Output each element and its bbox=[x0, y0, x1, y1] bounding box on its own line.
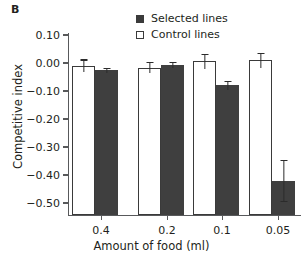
error-bar-control-0.4 bbox=[80, 59, 88, 72]
error-bar-selected-0.05 bbox=[280, 160, 288, 202]
x-tick-label: 0.4 bbox=[92, 225, 110, 237]
bar-selected-0.4 bbox=[95, 70, 118, 215]
y-tick-label: −0.30 bbox=[26, 142, 60, 153]
bar-selected-0.1 bbox=[216, 85, 239, 215]
error-bar-control-0.1 bbox=[201, 54, 209, 70]
y-tick-mark bbox=[63, 146, 69, 147]
legend-swatch-filled-square-icon bbox=[136, 15, 144, 23]
y-tick-label: −0.40 bbox=[26, 170, 60, 181]
y-tick-label: −0.50 bbox=[26, 198, 60, 209]
error-bar-stem bbox=[83, 59, 84, 72]
y-tick-mark bbox=[63, 62, 69, 63]
y-axis-title: Competitive index bbox=[12, 52, 25, 182]
error-bar-stem bbox=[260, 53, 261, 68]
x-tick-mark bbox=[101, 215, 102, 220]
y-tick-label: 0.00 bbox=[36, 58, 61, 69]
error-bar-cap-top bbox=[201, 54, 208, 55]
x-axis-title: Amount of food (ml) bbox=[0, 240, 303, 253]
y-tick-mark bbox=[63, 174, 69, 175]
error-bar-stem bbox=[149, 62, 150, 74]
error-bar-cap-bottom bbox=[280, 201, 287, 202]
legend-item-control-lines: Control lines bbox=[136, 27, 296, 42]
error-bar-stem bbox=[283, 160, 284, 202]
y-tick-mark bbox=[63, 118, 69, 119]
x-tick-mark bbox=[167, 215, 168, 220]
x-tick-mark bbox=[278, 215, 279, 220]
error-bar-cap-top bbox=[257, 53, 264, 54]
y-tick-mark bbox=[63, 90, 69, 91]
error-bar-cap-top bbox=[280, 160, 287, 161]
y-axis-line bbox=[68, 33, 69, 216]
bar-control-0.1 bbox=[193, 61, 216, 215]
legend-label-control-lines: Control lines bbox=[151, 28, 220, 41]
chart-legend: Selected lines Control lines bbox=[136, 11, 296, 43]
error-bar-selected-0.2 bbox=[169, 62, 177, 68]
panel-letter-label: B bbox=[11, 4, 20, 16]
error-bar-control-0.2 bbox=[146, 62, 154, 74]
figure-panel-b: B Selected lines Control lines 0.10 0.00… bbox=[0, 0, 303, 258]
x-tick-label: 0.2 bbox=[158, 225, 176, 237]
y-tick-label: 0.10 bbox=[36, 30, 61, 41]
error-bar-selected-0.1 bbox=[224, 81, 232, 90]
y-tick-mark bbox=[63, 34, 69, 35]
x-tick-label: 0.05 bbox=[266, 225, 291, 237]
error-bar-selected-0.4 bbox=[103, 68, 111, 73]
x-tick-label: 0.1 bbox=[213, 225, 231, 237]
bar-control-0.05 bbox=[249, 60, 272, 215]
error-bar-cap-top bbox=[224, 81, 231, 82]
bar-selected-0.2 bbox=[161, 65, 184, 215]
error-bar-cap-top bbox=[169, 62, 176, 63]
y-tick-mark bbox=[63, 202, 69, 203]
bar-control-0.2 bbox=[138, 68, 161, 216]
y-tick-label: −0.10 bbox=[26, 86, 60, 97]
error-bar-control-0.05 bbox=[257, 53, 265, 68]
x-tick-mark bbox=[222, 215, 223, 220]
error-bar-cap-top bbox=[146, 62, 153, 63]
y-tick-label: −0.20 bbox=[26, 114, 60, 125]
error-bar-cap-top bbox=[103, 68, 110, 69]
legend-item-selected-lines: Selected lines bbox=[136, 11, 296, 26]
bar-control-0.4 bbox=[72, 66, 95, 215]
error-bar-cap-top bbox=[80, 59, 87, 60]
legend-label-selected-lines: Selected lines bbox=[151, 12, 228, 25]
legend-swatch-open-square-icon bbox=[136, 31, 144, 39]
error-bar-stem bbox=[204, 54, 205, 70]
